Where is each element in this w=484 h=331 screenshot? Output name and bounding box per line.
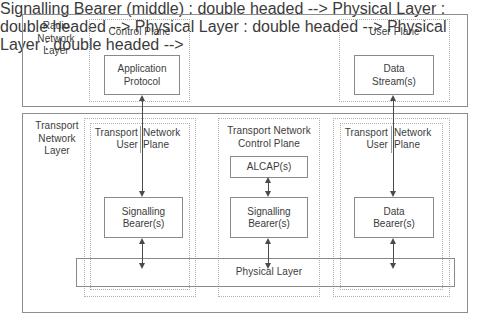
- signalling-bearer-left-block: Signalling Bearer(s): [104, 197, 183, 238]
- arrow-head-down-signalling-left: [139, 191, 145, 197]
- architecture-diagram: Radio Network Layer Transport Network La…: [0, 0, 484, 331]
- transport-user-left-label: Transport User: [92, 127, 138, 151]
- data-bearer-label: Data Bearer(s): [355, 205, 433, 230]
- arrow-head-down-physical-middle: [265, 263, 271, 269]
- arrow-head-up-signalling-left-physical: [139, 238, 145, 244]
- signalling-bearer-middle-block: Signalling Bearer(s): [230, 197, 308, 238]
- right-subplane-divider: [391, 126, 392, 153]
- network-plane-left-label: Network Plane: [143, 127, 188, 151]
- arrow-head-up-data-stream: [390, 95, 396, 101]
- radio-network-layer-label: Radio Network Layer: [26, 20, 86, 58]
- application-protocol-block: Application Protocol: [104, 55, 180, 95]
- user-plane-label: User Plane: [339, 26, 450, 39]
- signalling-bearer-left-label: Signalling Bearer(s): [105, 205, 182, 230]
- data-stream-block: Data Stream(s): [354, 55, 434, 95]
- transport-network-layer-label: Transport Network Layer: [26, 120, 88, 158]
- data-bearer-block: Data Bearer(s): [354, 197, 434, 238]
- network-plane-right-label: Network Plane: [394, 127, 439, 151]
- arrow-head-down-physical-right: [390, 263, 396, 269]
- arrow-shaft-data-stream-to-data-bearer: [393, 101, 394, 191]
- arrow-head-down-signalling-middle: [265, 191, 271, 197]
- transport-network-control-plane-label: Transport Network Control Plane: [218, 125, 320, 150]
- arrow-head-up-app-protocol: [139, 95, 145, 101]
- left-subplane-divider: [140, 126, 141, 153]
- transport-user-right-label: Transport User: [342, 127, 388, 151]
- arrow-head-up-signalling-middle-physical: [265, 238, 271, 244]
- signalling-bearer-middle-label: Signalling Bearer(s): [231, 205, 307, 230]
- arrow-head-down-physical-left: [139, 263, 145, 269]
- arrow-head-up-alcap: [265, 177, 271, 183]
- alcap-block: ALCAP(s): [230, 156, 308, 178]
- arrow-head-down-data-bearer: [390, 191, 396, 197]
- arrow-shaft-app-protocol-to-signalling-left: [142, 101, 143, 191]
- data-stream-label: Data Stream(s): [355, 63, 433, 88]
- application-protocol-label: Application Protocol: [105, 63, 179, 88]
- alcap-label: ALCAP(s): [231, 161, 307, 174]
- arrow-head-up-data-bearer-physical: [390, 238, 396, 244]
- control-plane-label: Control Plane: [89, 26, 190, 39]
